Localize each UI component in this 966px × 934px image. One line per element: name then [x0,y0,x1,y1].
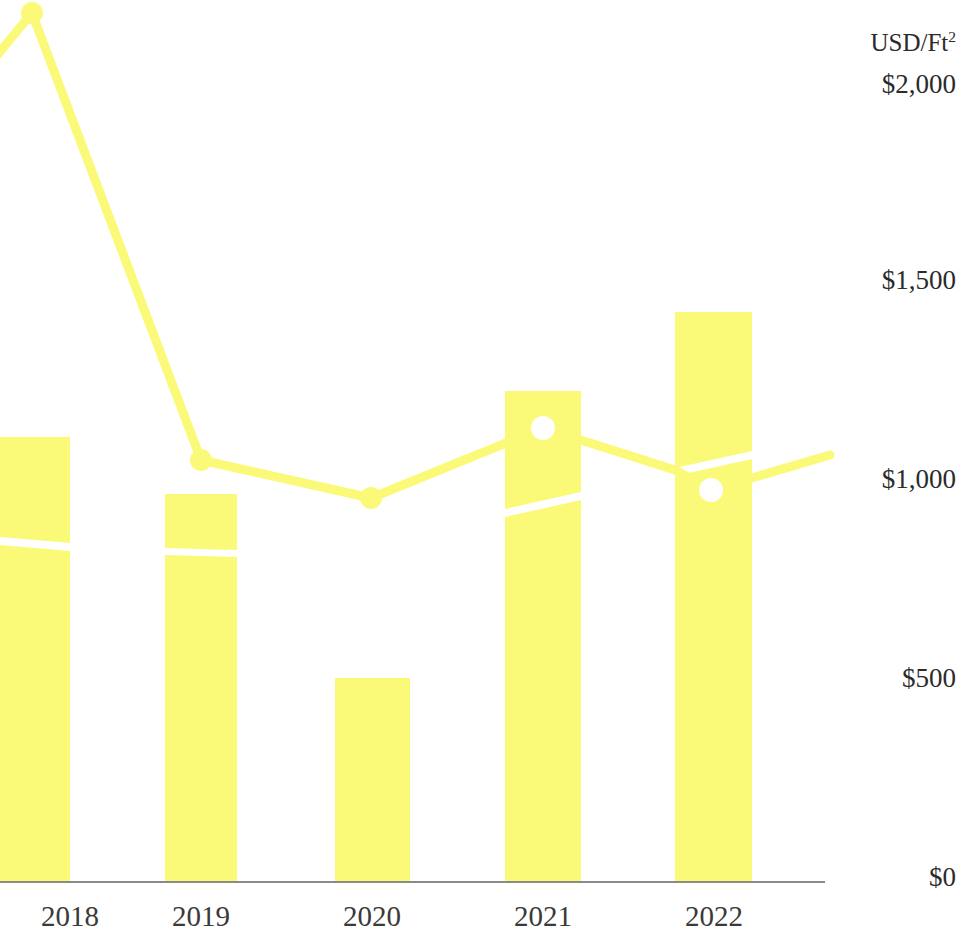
x-tick-label-2018: 2018 [0,902,140,931]
x-tick-label-2020: 2020 [302,902,442,931]
y-tick-label-2000: $2,000 [826,71,956,98]
line-marker-2018[interactable] [21,2,43,24]
x-tick-label-2019: 2019 [131,902,271,931]
y-tick-label-1500: $1,500 [826,267,956,294]
bar-2022[interactable] [675,312,752,882]
chart-container: USD/Ft2 $2,000 $1,500 $1,000 $500 $0 201… [0,0,966,934]
line-marker-2019[interactable] [190,449,212,471]
y-axis-title-text: USD/Ft [870,29,948,56]
bar-2020[interactable] [335,678,410,882]
bar-2019[interactable] [165,494,237,882]
x-tick-label-2022: 2022 [644,902,784,931]
bar-series [0,312,752,882]
bar-2018[interactable] [0,437,70,882]
y-tick-label-1000: $1,000 [826,466,956,493]
line-marker-2021[interactable] [531,416,555,440]
chart-plot-area [0,0,966,934]
y-axis-title-superscript: 2 [948,28,956,45]
line-marker-2022[interactable] [699,478,723,502]
bar-2021[interactable] [505,391,581,882]
x-tick-label-2021: 2021 [473,902,613,931]
y-tick-label-0: $0 [826,864,956,891]
line-marker-2020[interactable] [360,487,382,509]
y-axis-title: USD/Ft2 [870,30,956,55]
y-tick-label-500: $500 [826,665,956,692]
